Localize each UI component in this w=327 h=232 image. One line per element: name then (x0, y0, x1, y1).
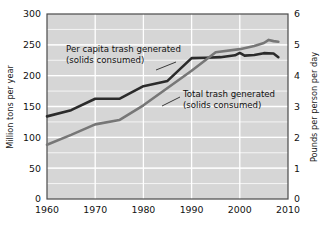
right-tick-label: 2 (294, 132, 300, 143)
total-label-line-1: Total trash generated (182, 89, 275, 99)
chart-container: 050100150200250300 0123456 1960197019801… (0, 0, 327, 232)
left-tick-label: 300 (23, 8, 41, 19)
left-tick-label: 150 (23, 101, 41, 112)
x-tick-label: 1960 (35, 204, 59, 215)
trash-generation-line-chart: 050100150200250300 0123456 1960197019801… (0, 0, 327, 232)
x-tick-label: 1970 (83, 204, 107, 215)
left-tick-label: 0 (35, 193, 41, 204)
right-tick-label: 6 (294, 8, 300, 19)
right-axis-title: Pounds per person per day (309, 52, 319, 162)
per-capita-label-line-2: (solids consumed) (66, 55, 144, 65)
right-tick-label: 3 (294, 101, 300, 112)
left-tick-label: 200 (23, 70, 41, 81)
total-label-line-2: (solids consumed) (183, 100, 261, 110)
x-tick-label: 2010 (276, 204, 300, 215)
right-tick-label: 5 (294, 39, 300, 50)
right-tick-label: 0 (294, 193, 300, 204)
left-tick-label: 100 (23, 132, 41, 143)
x-tick-label: 2000 (228, 204, 252, 215)
per-capita-label-line-1: Per capita trash generated (66, 44, 181, 54)
x-tick-label: 1990 (180, 204, 204, 215)
right-tick-label: 4 (294, 70, 300, 81)
left-tick-label: 50 (29, 163, 41, 174)
x-tick-label: 1980 (131, 204, 155, 215)
left-tick-label: 250 (23, 39, 41, 50)
right-tick-label: 1 (294, 163, 300, 174)
left-axis-title: Million tons per year (5, 65, 15, 149)
